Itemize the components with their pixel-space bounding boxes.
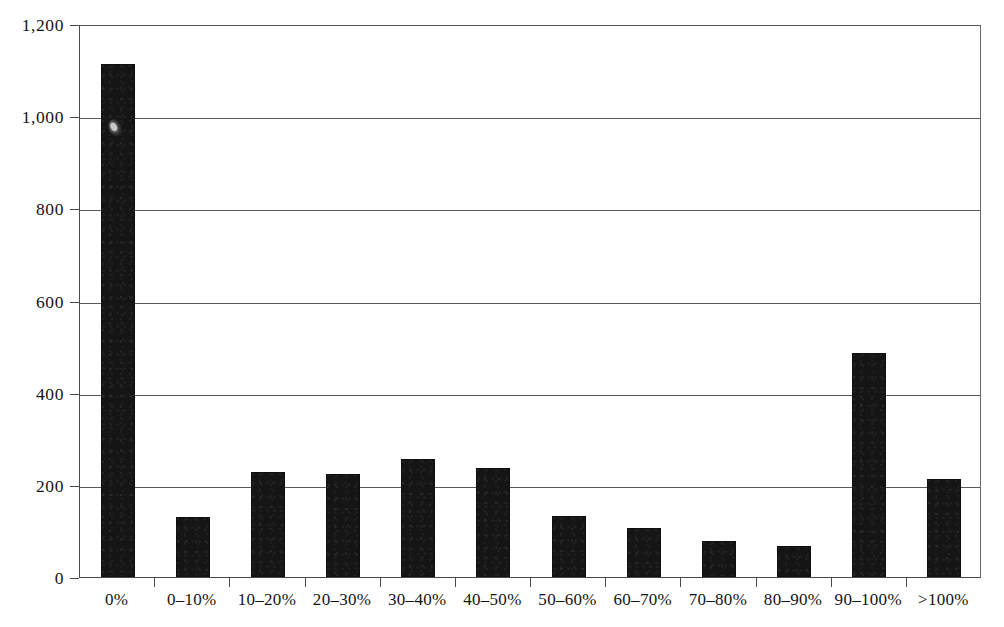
y-tick-mark-400 [70,394,79,395]
x-tick-label-1: 0–10% [167,590,217,610]
gridline-800 [80,210,980,211]
gridline-200 [80,487,980,488]
plot-area [79,25,981,578]
bar-80-90[interactable] [777,546,811,577]
y-tick-mark-0 [70,578,79,579]
y-tick-mark-600 [70,302,79,303]
y-tick-mark-1000 [70,117,79,118]
x-tick-mark-4 [380,578,381,587]
x-tick-mark-11 [906,578,907,587]
bar-70-80[interactable] [702,541,736,577]
bar-10-20[interactable] [251,472,285,577]
x-tick-mark-9 [756,578,757,587]
y-tick-mark-200 [70,486,79,487]
x-tick-label-8: 70–80% [689,590,747,610]
x-tick-label-6: 50–60% [538,590,596,610]
x-tick-label-9: 80–90% [764,590,822,610]
scan-artifact-speck [105,117,125,139]
x-tick-label-4: 30–40% [388,590,446,610]
y-tick-mark-1200 [70,25,79,26]
y-tick-label-800: 800 [0,199,64,220]
bar-20-30[interactable] [326,474,360,577]
x-tick-mark-5 [455,578,456,587]
y-tick-label-600: 600 [0,291,64,312]
x-tick-label-0: 0% [105,590,128,610]
bar-100[interactable] [927,479,961,577]
bar-90-100[interactable] [852,353,886,577]
y-tick-label-200: 200 [0,475,64,496]
gridline-1000 [80,118,980,119]
x-tick-mark-7 [605,578,606,587]
bar-30-40[interactable] [401,459,435,577]
bar-60-70[interactable] [627,528,661,577]
x-tick-mark-2 [229,578,230,587]
y-tick-label-1000: 1,000 [0,107,64,128]
x-tick-label-2: 10–20% [238,590,296,610]
x-tick-mark-3 [305,578,306,587]
gridline-600 [80,303,980,304]
y-tick-label-400: 400 [0,383,64,404]
y-tick-mark-800 [70,209,79,210]
y-tick-label-0: 0 [0,568,64,589]
x-tick-mark-1 [154,578,155,587]
bar-40-50[interactable] [476,468,510,577]
x-tick-mark-10 [831,578,832,587]
bar-0-10[interactable] [176,517,210,577]
gridline-400 [80,395,980,396]
x-tick-mark-8 [680,578,681,587]
x-tick-label-7: 60–70% [614,590,672,610]
y-tick-label-1200: 1,200 [0,15,64,36]
x-tick-label-10: 90–100% [835,590,902,610]
x-tick-label-3: 20–30% [313,590,371,610]
x-tick-mark-6 [530,578,531,587]
x-tick-label-11: >100% [918,590,969,610]
bar-50-60[interactable] [552,516,586,577]
bar-chart-figure: 02004006008001,0001,200 0%0–10%10–20%20–… [0,0,1004,627]
x-tick-label-5: 40–50% [463,590,521,610]
bar-0[interactable] [101,64,135,577]
